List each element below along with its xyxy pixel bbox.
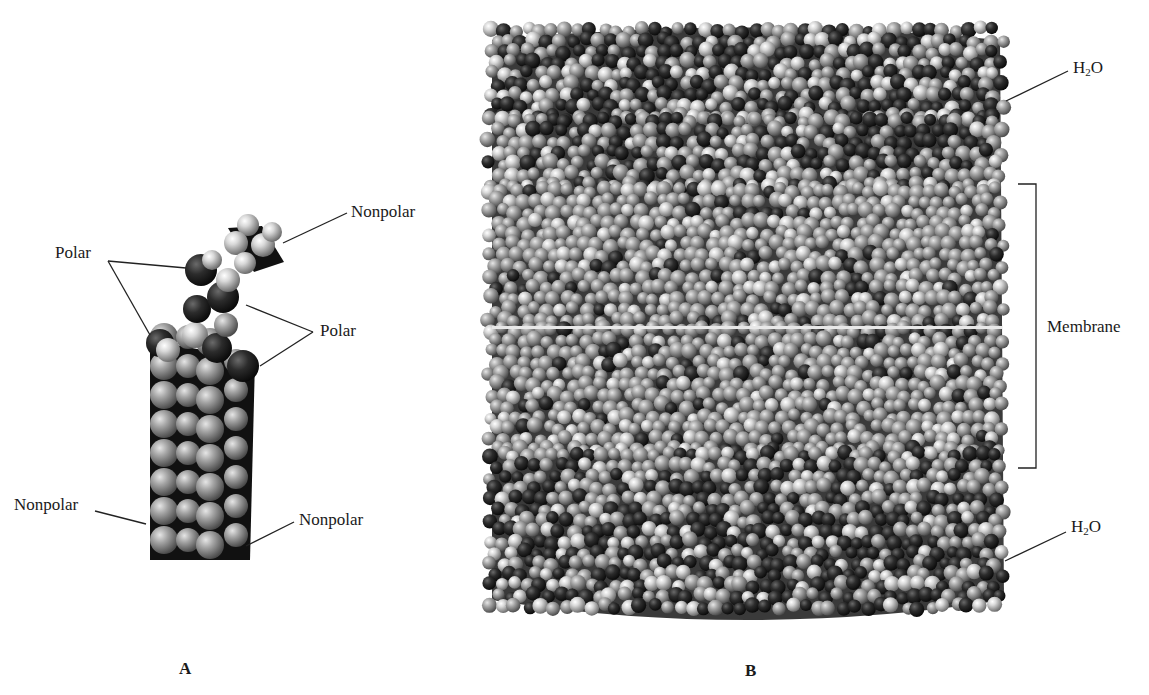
label-water-bottom-o: O (1089, 517, 1101, 536)
leader-water-bottom (1005, 532, 1066, 561)
membrane-bilayer-model (480, 20, 1012, 620)
leader-water-top (1006, 71, 1068, 101)
leader-polar-left-2 (108, 261, 150, 335)
label-water-top: H2O (1073, 59, 1103, 76)
label-water-top-h: H (1073, 58, 1085, 77)
leader-polar-left-1 (108, 261, 186, 268)
panel-label-a: A (179, 660, 191, 677)
leader-nonpolar-top (283, 213, 347, 243)
figure-canvas (0, 0, 1149, 695)
panel-label-b: B (745, 662, 756, 679)
label-nonpolar-top: Nonpolar (351, 203, 415, 220)
label-water-top-o: O (1091, 58, 1103, 77)
label-water-bottom-h: H (1071, 517, 1083, 536)
label-water-bottom: H2O (1071, 518, 1101, 535)
leader-polar-right-2 (260, 332, 313, 366)
label-polar-left: Polar (55, 244, 91, 261)
leader-nonpolar-left (95, 511, 146, 524)
label-nonpolar-right: Nonpolar (299, 511, 363, 528)
label-polar-right: Polar (320, 322, 356, 339)
label-nonpolar-left: Nonpolar (14, 496, 78, 513)
membrane-bracket (1018, 184, 1036, 468)
leader-nonpolar-right (246, 522, 294, 546)
leader-polar-right-1 (246, 305, 313, 332)
label-membrane: Membrane (1047, 318, 1121, 335)
